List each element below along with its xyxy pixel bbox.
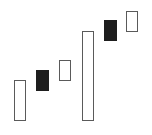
candle-3-bullish	[59, 60, 71, 81]
candle-6-bullish	[126, 11, 138, 32]
candle-5-bearish	[104, 20, 117, 41]
candle-4-bullish	[82, 31, 94, 121]
candle-2-bearish	[36, 70, 49, 91]
candle-1-bullish	[14, 80, 26, 121]
candlestick-chart	[0, 0, 152, 135]
